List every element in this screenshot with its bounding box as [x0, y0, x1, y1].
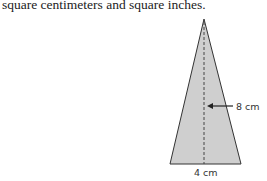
base-label: 4 cm [194, 167, 218, 178]
triangle-figure: 8 cm 4 cm [0, 0, 267, 181]
triangle [170, 19, 241, 164]
height-label: 8 cm [236, 101, 260, 112]
